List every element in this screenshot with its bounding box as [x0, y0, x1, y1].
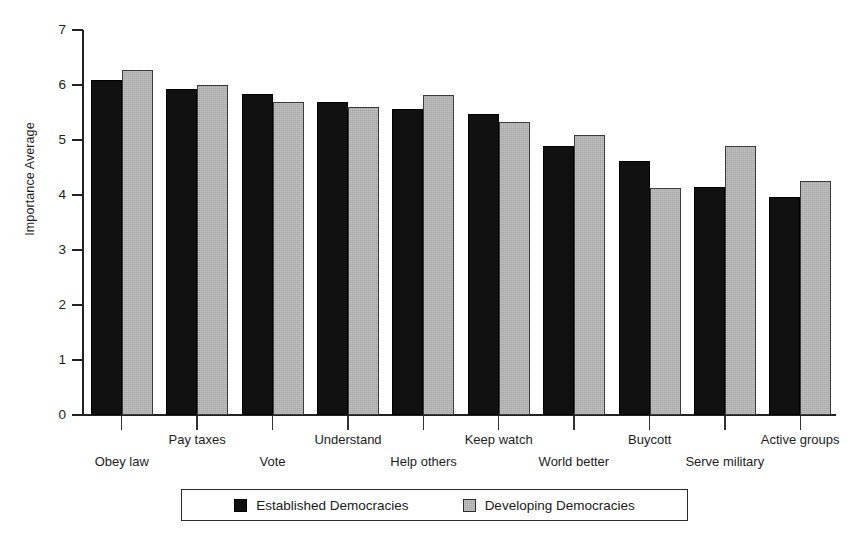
bar-established-world-better — [543, 146, 574, 416]
legend-label-established: Established Democracies — [256, 498, 408, 513]
x-axis-label-active-groups: Active groups — [761, 433, 840, 446]
x-axis-label-help-others: Help others — [390, 455, 456, 468]
x-axis-tick — [347, 416, 349, 430]
chart-legend: Established Democracies Developing Democ… — [181, 489, 688, 521]
bar-developing-pay-taxes — [197, 85, 228, 415]
x-axis-tick — [423, 416, 425, 430]
bar-established-vote — [242, 94, 273, 415]
bar-developing-understand — [348, 107, 379, 415]
x-axis-label-understand: Understand — [314, 433, 381, 446]
bar-developing-world-better — [574, 135, 605, 416]
bar-established-keep-watch — [468, 114, 499, 415]
bar-established-obey-law — [91, 80, 122, 416]
bar-developing-serve-military — [725, 146, 756, 415]
x-axis-tick — [573, 416, 575, 430]
bar-chart-figure: Importance Average 01234567 Obey lawPay … — [0, 0, 868, 539]
bar-developing-active-groups — [800, 181, 831, 415]
gray-square-icon — [463, 499, 476, 512]
legend-item-established: Established Democracies — [234, 498, 408, 513]
bar-established-serve-military — [694, 187, 725, 415]
x-axis-tick — [121, 416, 123, 430]
legend-item-developing: Developing Democracies — [463, 498, 635, 513]
x-axis-label-world-better: World better — [539, 455, 610, 468]
bar-developing-vote — [273, 102, 304, 416]
bar-established-help-others — [392, 109, 423, 415]
bar-developing-obey-law — [122, 70, 153, 415]
x-axis-label-buycott: Buycott — [628, 433, 671, 446]
x-axis-tick — [649, 416, 651, 430]
black-square-icon — [234, 499, 247, 512]
x-axis-tick — [272, 416, 274, 430]
x-axis-label-serve-military: Serve military — [685, 455, 764, 468]
x-axis-label-keep-watch: Keep watch — [465, 433, 533, 446]
x-axis-label-obey-law: Obey law — [95, 455, 149, 468]
bar-established-active-groups — [769, 197, 800, 415]
bar-developing-help-others — [423, 95, 454, 415]
bar-established-pay-taxes — [166, 89, 197, 415]
bar-established-understand — [317, 102, 348, 416]
x-axis-tick — [196, 416, 198, 430]
x-axis-tick — [724, 416, 726, 430]
x-axis-label-pay-taxes: Pay taxes — [169, 433, 226, 446]
x-axis-label-vote: Vote — [260, 455, 286, 468]
x-axis-tick — [800, 416, 802, 430]
x-axis-tick — [498, 416, 500, 430]
bar-established-buycott — [619, 161, 650, 415]
bar-developing-buycott — [650, 188, 681, 415]
bar-developing-keep-watch — [499, 122, 530, 415]
legend-label-developing: Developing Democracies — [485, 498, 635, 513]
